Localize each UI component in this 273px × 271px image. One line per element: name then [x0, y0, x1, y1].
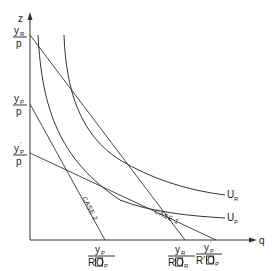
x-intercept-yP-over-ROP: y P R O P	[88, 244, 115, 269]
q-axis-arrow-icon	[249, 238, 257, 243]
svg-text:R: R	[168, 257, 175, 268]
y-intercept-yP-over-p: y P p	[13, 93, 27, 117]
svg-text:P: P	[20, 149, 24, 155]
svg-text:y: y	[14, 93, 19, 104]
svg-text:y: y	[204, 242, 209, 253]
svg-text:′: ′	[20, 141, 22, 147]
z-axis-label: z	[18, 13, 23, 24]
svg-text:′: ′	[210, 240, 212, 246]
svg-text:R′: R′	[196, 255, 205, 266]
curve-UR	[64, 35, 225, 195]
svg-text:p: p	[16, 156, 22, 167]
svg-text:O: O	[96, 257, 104, 268]
svg-text:P: P	[104, 263, 108, 269]
svg-text:P: P	[210, 248, 214, 254]
svg-text:P: P	[215, 261, 219, 267]
svg-text:P: P	[101, 250, 105, 256]
case2-label: CASE 2	[81, 195, 99, 221]
svg-text:p: p	[16, 106, 22, 117]
case1-label: CASE 1	[154, 208, 181, 225]
svg-text:y: y	[14, 25, 19, 36]
svg-text:p: p	[16, 38, 22, 49]
svg-text:R: R	[20, 31, 25, 37]
curve-UP-label-sub: P	[234, 219, 238, 225]
svg-text:O: O	[176, 257, 184, 268]
svg-text:R: R	[88, 257, 95, 268]
curve-UR-label-sub: R	[234, 196, 239, 202]
svg-text:O: O	[207, 255, 215, 266]
svg-text:R: R	[184, 263, 189, 269]
svg-text:y: y	[14, 143, 19, 154]
x-intercept-yR-over-ROR: y R R O R	[168, 244, 195, 269]
y-intercept-yR-over-p: y R p	[13, 25, 27, 49]
z-axis-arrow-icon	[28, 12, 33, 20]
svg-text:R: R	[181, 250, 186, 256]
q-axis-label: q	[259, 235, 265, 246]
budget-line-case1	[30, 153, 216, 240]
x-intercept-yPprime-over-RprimeOP: y P ′ R′ O P	[196, 240, 222, 267]
svg-text:P: P	[20, 99, 24, 105]
svg-text:y: y	[95, 244, 100, 255]
svg-text:y: y	[175, 244, 180, 255]
indifference-diagram: z q U R U P CASE 2 CASE 1 y R p y P p y …	[0, 0, 273, 271]
y-intercept-yPprime-over-p: y P ′ p	[13, 141, 27, 167]
